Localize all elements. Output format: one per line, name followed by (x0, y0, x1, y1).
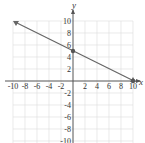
svg-text:-6: -6 (64, 113, 71, 122)
svg-text:-4: -4 (64, 101, 71, 110)
x-tick-labels: -10 -8 -6 -4 -2 2 4 6 8 10 (8, 82, 137, 91)
svg-text:10: 10 (63, 17, 71, 26)
svg-text:8: 8 (119, 82, 123, 91)
svg-text:-10: -10 (8, 82, 19, 91)
svg-text:-2: -2 (64, 89, 71, 98)
svg-text:4: 4 (95, 82, 99, 91)
svg-text:-4: -4 (46, 82, 53, 91)
data-point-y-intercept (71, 49, 75, 53)
svg-text:2: 2 (83, 82, 87, 91)
svg-text:-8: -8 (22, 82, 29, 91)
x-axis-label: x (138, 77, 143, 87)
svg-text:10: 10 (129, 82, 137, 91)
y-tick-labels: 10 8 6 4 2 -2 -4 -6 -8 -10 (60, 17, 71, 143)
svg-text:4: 4 (67, 53, 71, 62)
svg-text:6: 6 (107, 82, 111, 91)
svg-text:-8: -8 (64, 125, 71, 134)
y-axis-label: y (71, 0, 76, 10)
svg-text:-10: -10 (60, 137, 71, 143)
svg-text:8: 8 (67, 29, 71, 38)
svg-text:-2: -2 (58, 82, 65, 91)
svg-text:-6: -6 (34, 82, 41, 91)
coordinate-plane: x y -10 -8 -6 -4 -2 2 4 6 8 10 10 8 6 4 … (0, 0, 145, 143)
svg-text:2: 2 (67, 65, 71, 74)
data-point-x-intercept (131, 79, 135, 83)
